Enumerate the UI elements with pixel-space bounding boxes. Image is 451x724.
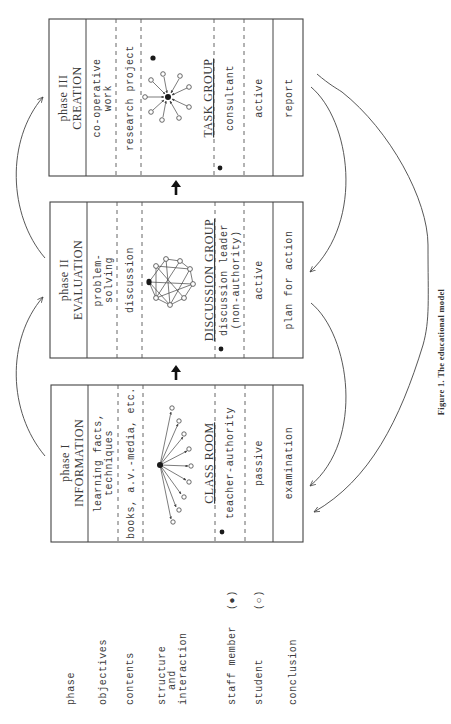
educational-model-diagram: phase III CREATION co-operative work res… (0, 0, 451, 724)
phase-2-box: phase II EVALUATION problem- solving dis… (50, 202, 303, 358)
discussion-group-network-icon (146, 257, 195, 308)
staff-marker-icon (219, 347, 224, 352)
legend-objectives: objectives (98, 639, 109, 705)
legend-contents: contents (125, 652, 136, 705)
legend-staff-member: staff member (227, 626, 238, 705)
progress-arrow-icon (171, 180, 181, 195)
phase-2-staff-role-line2: (non-authority) (231, 230, 242, 329)
phase-1-objectives-line2: techniques (104, 430, 115, 496)
class-room-network-icon (157, 406, 193, 524)
row-legend: phase objectives contents structure and … (66, 590, 299, 705)
phase-3-structure-name: TASK GROUP (201, 58, 215, 137)
phase3-to-phase2-arrow-icon (310, 87, 346, 272)
legend-conclusion: conclusion (288, 639, 299, 705)
phase-3-objectives-line2: work (103, 85, 114, 111)
phase2-to-phase1-arrow-icon (310, 303, 346, 486)
phase-3-conclusion: report (284, 78, 295, 118)
phase-2-objectives-line2: solving (104, 257, 115, 303)
phase-1-box: phase I INFORMATION learning facts, tech… (51, 385, 303, 542)
staff-marker-icon (220, 530, 225, 535)
phase-2-objectives-line1: problem- (93, 254, 104, 307)
phase-3-title: CREATION (70, 66, 84, 129)
phase-3-staff-role: consultant (225, 65, 236, 131)
phase-1-label: phase I (58, 444, 72, 482)
phase3-to-phase1-arrow-icon (314, 74, 428, 512)
phase-2-staff-role-line1: discussion leader (219, 224, 230, 336)
task-group-network-icon (143, 55, 192, 122)
phase-1-contents: books, a.v.-media, etc. (126, 387, 137, 539)
phase-3-student-role: active (254, 78, 265, 118)
phase-3-box: phase III CREATION co-operative work res… (49, 19, 303, 176)
phase-1-student-role: passive (254, 440, 265, 486)
legend-structure-line3: interaction (178, 632, 189, 705)
staff-marker-icon (218, 166, 223, 171)
phase-1-structure-name: CLASS ROOM (202, 422, 216, 503)
phase-1-conclusion: examination (284, 427, 295, 500)
phase1-to-phase2-arrow-icon (16, 297, 45, 456)
progress-arrow-icon (171, 365, 181, 380)
staff-symbol-icon: (●) (227, 590, 238, 610)
phase-1-staff-role: teacher-authority (225, 407, 236, 519)
phase-3-contents: research project (125, 45, 136, 151)
figure-caption: Figure 1. The educational model (436, 288, 446, 415)
phase-1-title: INFORMATION (72, 419, 86, 507)
phase-2-label: phase II (57, 259, 71, 301)
phase-2-conclusion: plan for action (284, 230, 295, 329)
phase-2-structure-name: DISCUSSION GROUP (202, 219, 216, 341)
student-symbol-icon: (○) (254, 590, 265, 610)
legend-phase: phase (66, 672, 77, 705)
phase2-to-phase3-arrow-icon (16, 97, 45, 258)
phase-3-objectives-line1: co-operative (92, 58, 103, 137)
phase-3-label: phase III (56, 75, 70, 122)
phase-2-contents: discussion (125, 247, 136, 313)
phase-2-title: EVALUATION (71, 240, 85, 320)
phase-1-objectives-line1: learning facts, (93, 413, 104, 512)
phase-2-student-role: active (254, 260, 265, 300)
legend-student: student (254, 659, 265, 705)
legend-structure-line2: and (167, 670, 178, 690)
